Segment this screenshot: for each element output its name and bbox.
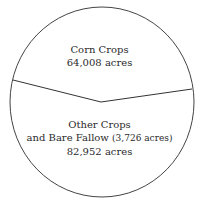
- bare-fallow-acres: (3,726 acres): [112, 133, 172, 143]
- corn-crops-acres: 64,008 acres: [0, 56, 199, 69]
- other-crops-name: Other Crops: [0, 118, 199, 131]
- pie-chart: [0, 0, 199, 204]
- corn-crops-label: Corn Crops 64,008 acres: [0, 43, 199, 69]
- other-crops-acres: 82,952 acres: [0, 145, 199, 158]
- corn-crops-name: Corn Crops: [0, 43, 199, 56]
- bare-fallow-text: and Bare Fallow: [27, 132, 113, 143]
- bare-fallow-line: and Bare Fallow (3,726 acres): [0, 131, 199, 145]
- other-crops-label: Other Crops and Bare Fallow (3,726 acres…: [0, 118, 199, 158]
